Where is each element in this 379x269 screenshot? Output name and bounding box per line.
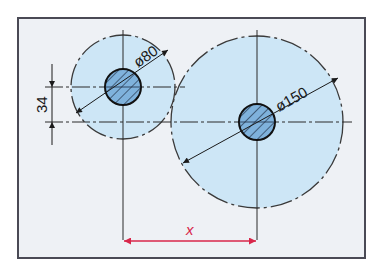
diagram-canvas: ø80 ø150 34 x <box>0 0 379 269</box>
center-distance-label: x <box>185 221 194 238</box>
vertical-offset-label: 34 <box>33 96 50 113</box>
